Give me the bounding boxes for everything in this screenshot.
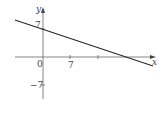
y-tick-label-7: 7: [35, 21, 41, 30]
origin-label: 0: [37, 60, 43, 69]
line-graph: [0, 0, 168, 122]
x-axis-label: x: [152, 58, 157, 67]
y-axis-label: y: [36, 5, 41, 14]
y-axis-arrow-icon: [41, 7, 45, 13]
y-tick-label-neg7: −7: [30, 81, 43, 90]
x-tick-label-7: 7: [68, 61, 74, 70]
